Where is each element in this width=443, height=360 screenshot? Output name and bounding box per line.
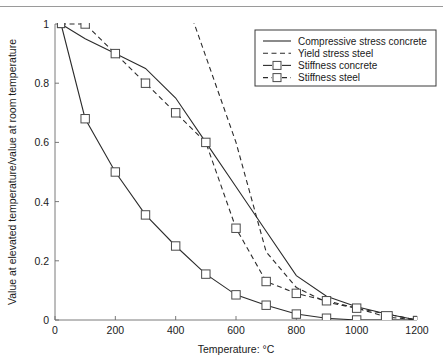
top-divider-rule (0, 6, 443, 7)
x-tick-label: 0 (52, 324, 58, 336)
chart-canvas: 020040060080010001200 00.20.40.60.81 Tem… (0, 0, 443, 360)
data-point-marker (202, 270, 210, 278)
data-point-marker (111, 168, 119, 176)
x-tick-label: 800 (288, 324, 306, 336)
y-tick-label: 0.8 (34, 77, 49, 89)
chart-legend: Compressive stress concreteYield stress … (255, 30, 436, 86)
data-point-marker (352, 304, 360, 312)
data-point-marker (141, 79, 149, 87)
legend-swatch-marker (273, 61, 281, 69)
y-axis-title: Value at elevated temperature/value at r… (6, 39, 18, 305)
y-tick-label: 1 (43, 18, 49, 30)
data-point-marker (111, 49, 119, 57)
data-point-marker (232, 224, 240, 232)
legend-item-label: Yield stress steel (298, 48, 373, 59)
data-point-marker (232, 291, 240, 299)
figure-container: 020040060080010001200 00.20.40.60.81 Tem… (0, 0, 443, 360)
x-tick-label: 1200 (405, 324, 429, 336)
legend-swatch-marker (273, 74, 281, 82)
x-tick-label: 200 (107, 324, 125, 336)
x-tick-label: 600 (227, 324, 245, 336)
y-tick-label: 0 (43, 314, 49, 326)
legend-item-label: Stiffness concrete (298, 60, 378, 71)
data-point-marker (322, 314, 330, 322)
data-point-marker (352, 316, 360, 324)
data-point-marker (381, 312, 392, 323)
data-point-marker (292, 310, 300, 318)
x-tick-label: 1000 (345, 324, 369, 336)
x-tick-label: 400 (167, 324, 185, 336)
data-point-marker (141, 211, 149, 219)
data-point-marker (202, 138, 210, 146)
data-point-marker (262, 277, 270, 285)
data-point-marker (292, 289, 300, 297)
x-axis-ticks: 020040060080010001200 (52, 316, 429, 336)
data-point-marker (322, 297, 330, 305)
data-point-marker (413, 316, 420, 323)
y-tick-label: 0.4 (34, 196, 49, 208)
legend-item-label: Stiffness steel (298, 72, 360, 83)
data-point-marker (262, 301, 270, 309)
legend-item-label: Compressive stress concrete (298, 36, 427, 47)
x-axis-title: Temperature: °C (198, 343, 275, 355)
data-point-marker (81, 115, 89, 123)
data-point-marker (81, 20, 89, 28)
y-tick-label: 0.6 (34, 136, 49, 148)
data-point-marker (171, 109, 179, 117)
data-point-marker (171, 242, 179, 250)
y-tick-label: 0.2 (34, 255, 49, 267)
data-point-marker (57, 20, 64, 27)
